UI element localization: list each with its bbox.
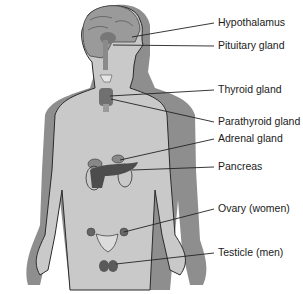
label-hypothalamus: Hypothalamus bbox=[218, 16, 285, 28]
label-thyroid-gland: Thyroid gland bbox=[218, 83, 282, 95]
label-pancreas: Pancreas bbox=[218, 160, 262, 172]
label-adrenal-gland: Adrenal gland bbox=[218, 132, 283, 144]
label-parathyroid-gland: Parathyroid gland bbox=[218, 115, 300, 127]
label-ovary: Ovary (women) bbox=[218, 202, 290, 214]
label-pituitary-gland: Pituitary gland bbox=[218, 39, 285, 51]
label-testicle: Testicle (men) bbox=[218, 246, 283, 258]
